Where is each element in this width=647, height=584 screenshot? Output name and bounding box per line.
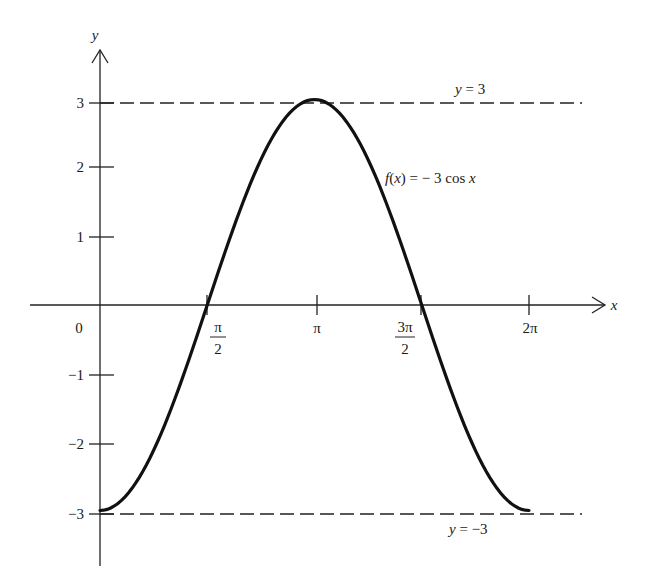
x-tick-label-pi-half-den: 2 [214,341,222,357]
x-tick-label-pi-half-num: π [214,319,222,335]
y-tick-label-neg2: −2 [68,436,84,452]
x-tick-label-2pi: 2π [522,320,538,336]
lower-asymptote-label: y = −3 [447,521,488,537]
y-tick-label-1: 1 [77,229,85,245]
y-tick-label-3: 3 [77,95,85,111]
x-tick-label-pi: π [313,320,321,336]
y-tick-label-neg3: −3 [68,506,84,522]
function-label: f(x) = − 3 cos x [385,170,476,187]
x-axis-label: x [610,297,618,313]
x-tick-label-3pi-half-den: 2 [401,341,409,357]
y-tick-label-2: 2 [77,159,85,175]
upper-asymptote-label: y = 3 [453,81,485,97]
cosine-graph: y 3 2 1 0 −1 −2 −3 x π 2 π 3π 2 2π y = 3… [0,0,647,584]
x-tick-label-3pi-half-num: 3π [397,319,413,335]
y-axis-label: y [90,27,99,43]
y-tick-label-neg1: −1 [68,367,84,383]
y-ticks [89,103,114,514]
origin-label: 0 [75,320,83,336]
